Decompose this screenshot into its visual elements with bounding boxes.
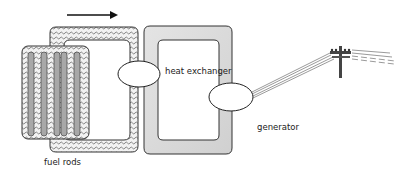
fuel-rods-assembly — [22, 46, 89, 139]
generator-label: generator — [257, 122, 299, 132]
generator-ellipse — [209, 83, 253, 111]
power-pole-icon — [330, 46, 351, 78]
heat-exchanger-label: heat exchanger — [165, 66, 232, 76]
fuel-rod — [61, 52, 67, 136]
flow-arrow-icon — [67, 11, 118, 19]
fuel-rod — [74, 52, 80, 136]
fuel-rod — [28, 52, 34, 136]
fuel-rod — [41, 52, 47, 136]
power-plant-diagram — [0, 0, 419, 173]
transmission-lines — [252, 50, 395, 98]
heat-exchanger-ellipse — [118, 61, 160, 87]
fuel-rods-label: fuel rods — [44, 157, 81, 167]
fuel-rod — [54, 52, 60, 136]
